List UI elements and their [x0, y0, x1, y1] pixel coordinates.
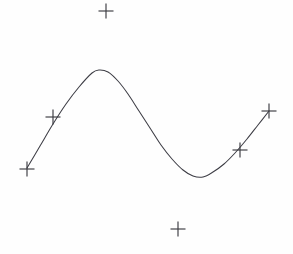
scatter-marker-layer [20, 4, 277, 237]
marker-rise-right [233, 143, 248, 158]
marker-left-end [20, 162, 35, 177]
marker-top-outlier [99, 4, 114, 19]
plot-canvas [0, 0, 293, 254]
plot-svg [0, 0, 293, 254]
marker-rise-left [46, 110, 61, 125]
marker-bottom-outlier [171, 222, 186, 237]
fitted-curve-path [27, 70, 269, 177]
marker-right-end [262, 104, 277, 119]
curve-layer [27, 70, 269, 177]
